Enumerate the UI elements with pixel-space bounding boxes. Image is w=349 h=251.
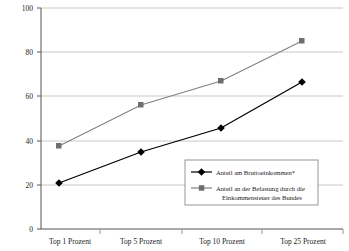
- series-marker-square: [56, 143, 62, 149]
- y-axis-tick-label: 40: [26, 137, 34, 146]
- y-axis-tick-label: 60: [26, 92, 34, 101]
- y-axis-tick-label: 80: [26, 48, 34, 57]
- y-axis-tick-label: 0: [29, 225, 33, 234]
- line-chart: 100 80 60 40 20 0 Top 1 Prozent Top 5 Pr…: [0, 0, 349, 251]
- chart-background: [0, 0, 349, 251]
- x-axis-tick-label: Top 25 Prozent: [280, 237, 327, 246]
- y-axis-tick-label: 100: [22, 4, 34, 13]
- chart-legend[interactable]: Anteil am Bruttoeinkommen* Anteil an der…: [185, 160, 318, 205]
- series-marker-square: [138, 102, 144, 108]
- square-marker-icon: [199, 185, 205, 191]
- legend-label-bruttoeinkommen: Anteil am Bruttoeinkommen*: [216, 169, 295, 176]
- x-axis-tick-label: Top 5 Prozent: [120, 237, 163, 246]
- y-axis-tick-label: 20: [26, 181, 34, 190]
- legend-label-belastung-line2: Einkommensteuer des Bundes: [222, 194, 302, 201]
- x-axis-tick-label: Top 10 Prozent: [199, 237, 246, 246]
- chart-container: 100 80 60 40 20 0 Top 1 Prozent Top 5 Pr…: [0, 0, 349, 251]
- legend-label-belastung-line1: Anteil an der Belastung durch die: [216, 185, 305, 192]
- series-marker-square: [218, 78, 224, 84]
- x-axis-tick-label: Top 1 Prozent: [49, 237, 92, 246]
- series-marker-square: [299, 38, 305, 44]
